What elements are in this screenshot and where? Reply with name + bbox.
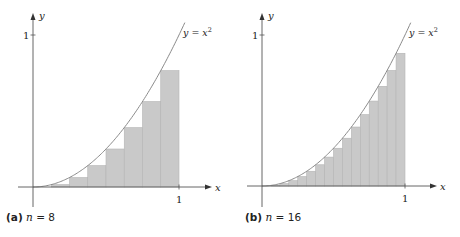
y-axis-arrow-icon [31, 13, 36, 20]
y-axis-label: y [38, 10, 45, 21]
riemann-rectangle [289, 181, 298, 186]
riemann-rectangle [351, 127, 360, 186]
riemann-rectangle [106, 149, 124, 187]
riemann-rectangle [307, 171, 316, 186]
x-axis-label: x [440, 181, 446, 192]
x-tick-label: 1 [402, 193, 408, 204]
y-tick-label: 1 [252, 30, 258, 41]
caption-a: (a) n = 8 [6, 211, 55, 223]
riemann-rectangle [387, 70, 396, 186]
caption-a-eq: = 8 [33, 211, 55, 223]
curve-label: y = x2 [408, 26, 438, 38]
riemann-rectangles [271, 53, 405, 186]
riemann-rectangle [360, 115, 369, 186]
riemann-rectangle [369, 101, 378, 186]
riemann-rectangle [124, 128, 142, 187]
y-axis-label: y [267, 10, 274, 21]
riemann-rectangle [143, 102, 161, 188]
caption-b-eq: = 16 [272, 211, 301, 223]
riemann-rectangle [161, 71, 179, 187]
x-axis-label: x [215, 182, 221, 193]
panel-a: 11xyy = x2 [18, 10, 221, 207]
riemann-rectangle [378, 86, 387, 186]
riemann-rectangle [70, 178, 88, 188]
y-tick-label: 1 [23, 30, 29, 41]
riemann-rectangles [51, 71, 179, 187]
panel-b: 11xyy = x2 [247, 10, 446, 207]
riemann-sum-figure: 11xyy = x211xyy = x2 [0, 0, 460, 237]
riemann-rectangle [342, 138, 351, 186]
caption-a-var: n [26, 211, 33, 223]
caption-a-tag: (a) [6, 211, 23, 223]
riemann-rectangle [396, 53, 405, 186]
caption-b-tag: (b) [245, 211, 262, 223]
riemann-rectangle [316, 165, 325, 186]
curve-label: y = x2 [182, 26, 212, 38]
riemann-rectangle [88, 166, 106, 187]
y-axis-arrow-icon [260, 13, 265, 20]
x-axis-arrow-icon [205, 185, 212, 190]
x-axis-arrow-icon [430, 184, 437, 189]
riemann-rectangle [298, 177, 307, 186]
riemann-rectangle [334, 148, 343, 186]
riemann-rectangle [325, 157, 334, 186]
x-tick-label: 1 [176, 194, 182, 205]
caption-b: (b) n = 16 [245, 211, 301, 223]
